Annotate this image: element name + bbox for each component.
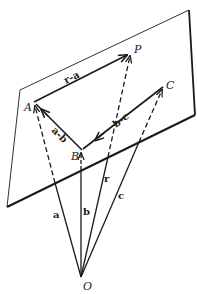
label-vector-b-minus-c: b-c	[110, 110, 130, 129]
vector-diagram: A B C P O a b r c r-a a-b b-c	[0, 0, 197, 294]
label-point-p: P	[133, 43, 142, 56]
label-vector-a-minus-b: a-b	[50, 125, 70, 145]
plane	[7, 10, 195, 207]
plane-bottom-edge	[7, 115, 195, 207]
plane-right-edge	[189, 10, 195, 115]
label-vector-r: r	[104, 173, 110, 184]
plane-top-edge	[20, 10, 189, 90]
label-vector-c: c	[118, 190, 124, 201]
label-vector-b: b	[83, 206, 90, 217]
label-point-a: A	[23, 101, 32, 114]
label-vector-r-minus-a: r-a	[62, 69, 82, 86]
label-point-b: B	[70, 150, 79, 163]
label-point-o: O	[83, 280, 92, 293]
plane-left-edge	[7, 90, 20, 207]
label-point-c: C	[166, 79, 175, 92]
label-vector-a: a	[53, 209, 60, 220]
